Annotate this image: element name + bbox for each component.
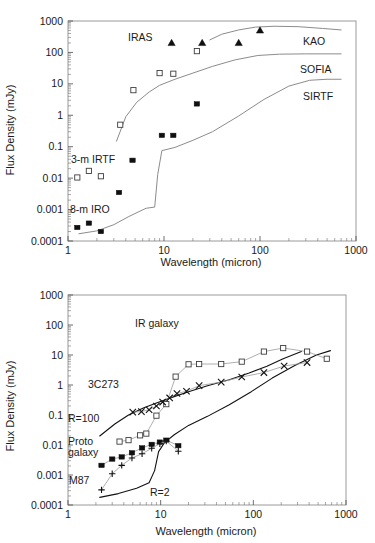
y-tick-label: 1000 (40, 15, 64, 27)
marker-m87 (139, 451, 145, 457)
curve-sirtf (79, 79, 341, 234)
marker-ir-galaxy (281, 345, 286, 350)
label-proto-galaxy: galaxy (68, 446, 99, 458)
bottom-chart-curves (100, 351, 331, 498)
marker-ir-galaxy (117, 439, 122, 444)
y-tick-label: 1000 (40, 289, 64, 301)
marker-proto-galaxy (129, 451, 134, 455)
marker-ir-galaxy (219, 361, 224, 366)
marker-8-m-iro (130, 158, 135, 162)
marker-8-m-iro (98, 229, 103, 233)
marker-proto-galaxy (139, 446, 144, 450)
marker-m87 (98, 487, 104, 493)
marker-ir-galaxy (324, 356, 329, 361)
y-tick-label: 100 (45, 46, 63, 58)
marker-proto-galaxy (110, 457, 115, 461)
y-tick-label: 1 (57, 379, 63, 391)
x-axis-title-top: Wavelength (micron) (160, 256, 261, 268)
y-axis-title-top: Flux Density (mJy) (4, 84, 16, 175)
marker-8-m-iro (75, 225, 80, 229)
marker-ir-galaxy (304, 349, 309, 354)
bottom-chart-panel: 11010010000.00010.0010.010.11101001000 W… (0, 271, 375, 543)
x-axis-title-bottom: Wavelength (micron) (155, 525, 256, 537)
label-3c273: 3C273 (88, 378, 119, 390)
y-tick-label: 100 (45, 319, 63, 331)
marker-3-m-irtf (157, 70, 162, 75)
marker-3-m-irtf (194, 49, 199, 54)
label-r100: R=100 (68, 412, 99, 424)
y-tick-label: 1 (57, 109, 63, 121)
y-tick-label: 0.001 (37, 469, 63, 481)
y-tick-label: 0.0001 (31, 499, 63, 511)
marker-iras (199, 39, 206, 45)
marker-m87 (129, 455, 135, 461)
label-m87: M87 (69, 474, 90, 486)
marker-8-m-iro (194, 102, 199, 106)
marker-8-m-iro (116, 190, 121, 194)
x-tick-label: 10 (158, 244, 170, 256)
bottom-chart-data-points (98, 345, 329, 493)
marker-3-m-irtf (118, 122, 123, 127)
marker-3c273 (261, 369, 267, 375)
marker-ir-galaxy (126, 438, 131, 443)
marker-3-m-irtf (98, 174, 103, 179)
y-tick-label: 0.01 (43, 439, 64, 451)
label-sofia: SOFIA (300, 63, 332, 75)
figure-container: 11010010000.00010.0010.010.11101001000 W… (0, 0, 375, 543)
x-tick-label: 100 (251, 244, 269, 256)
marker-ir-galaxy (154, 413, 159, 418)
y-tick-label: 0.0001 (31, 235, 63, 247)
label-3m-irtf: 3-m IRTF (71, 153, 115, 165)
marker-3c273 (146, 407, 152, 413)
marker-ir-galaxy (197, 361, 202, 366)
bottom-chart-svg: 11010010000.00010.0010.010.11101001000 W… (0, 271, 375, 543)
x-tick-label: 10 (155, 508, 167, 520)
marker-ir-galaxy (138, 433, 143, 438)
label-ir-galaxy: IR galaxy (135, 317, 180, 329)
y-tick-label: 10 (51, 77, 63, 89)
marker-3-m-irtf (86, 168, 91, 173)
y-axis-title-bottom: Flux Density (mJy) (4, 360, 16, 451)
marker-proto-galaxy (119, 455, 124, 459)
marker-3-m-irtf (131, 88, 136, 93)
y-tick-label: 0.01 (43, 172, 64, 184)
y-tick-label: 10 (51, 349, 63, 361)
marker-iras (168, 39, 175, 45)
y-tick-label: 0.001 (37, 203, 63, 215)
marker-ir-galaxy (186, 362, 191, 367)
top-chart-svg: 11010010000.00010.0010.010.11101001000 W… (0, 0, 375, 271)
y-tick-label: 0.1 (48, 140, 63, 152)
x-tick-label: 100 (245, 508, 263, 520)
marker-3-m-irtf (75, 175, 80, 180)
label-r2: R=2 (150, 486, 170, 498)
x-tick-label: 1000 (334, 508, 358, 520)
connector-3c273 (133, 363, 307, 413)
x-tick-label: 1 (65, 508, 71, 520)
curve-r-2 (100, 351, 331, 498)
top-chart-panel: 11010010000.00010.0010.010.11101001000 W… (0, 0, 375, 271)
label-kao: KAO (303, 35, 325, 47)
marker-8-m-iro (171, 133, 176, 137)
x-tick-label: 1 (65, 244, 71, 256)
top-chart-curves (79, 26, 341, 234)
marker-ir-galaxy (261, 349, 266, 354)
marker-8-m-iro (86, 221, 91, 225)
marker-3c273 (239, 374, 245, 380)
label-sirtf: SIRTF (303, 90, 333, 102)
marker-proto-galaxy (99, 463, 104, 467)
label-iras: IRAS (128, 31, 153, 43)
marker-proto-galaxy (176, 443, 181, 447)
marker-iras (235, 39, 242, 45)
label-8m-iro: 8-m IRO (70, 203, 110, 215)
y-tick-label: 0.1 (48, 409, 63, 421)
marker-iras (256, 27, 263, 33)
marker-ir-galaxy (144, 431, 149, 436)
marker-8-m-iro (159, 133, 164, 137)
marker-3-m-irtf (171, 71, 176, 76)
marker-3c273 (153, 403, 159, 409)
marker-ir-galaxy (173, 374, 178, 379)
marker-ir-galaxy (239, 359, 244, 364)
x-tick-label: 1000 (344, 244, 368, 256)
